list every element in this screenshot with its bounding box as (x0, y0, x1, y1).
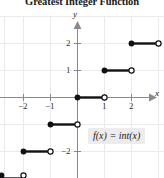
y-tick-label-minus2: −2 (61, 146, 71, 156)
open-endpoint (102, 95, 107, 100)
step-function-plot (0, 0, 164, 178)
open-endpoints (21, 41, 161, 178)
y-tick-label-1: 1 (66, 65, 71, 75)
open-endpoint (21, 173, 26, 178)
closed-endpoint (21, 149, 27, 155)
closed-endpoint (102, 68, 108, 74)
open-endpoint (129, 68, 134, 73)
closed-endpoint (48, 122, 54, 128)
y-axis-arrowhead (74, 21, 82, 29)
closed-endpoint (75, 95, 81, 101)
closed-endpoint (0, 173, 4, 178)
y-axis-label: y (73, 9, 77, 19)
x-tick-label-minus2: −2 (18, 101, 28, 111)
closed-endpoint (129, 41, 135, 47)
figure-container: Greatest Integer Function (0, 0, 164, 178)
y-tick-label-2: 2 (66, 38, 71, 48)
x-axis-label: x (155, 88, 159, 98)
x-tick-label-2: 2 (129, 101, 134, 111)
open-endpoint (156, 41, 161, 46)
open-endpoint (48, 149, 53, 154)
x-tick-label-minus1: −1 (45, 101, 55, 111)
open-endpoint (75, 122, 80, 127)
x-tick-label-1: 1 (102, 101, 107, 111)
axes (0, 22, 149, 178)
function-formula-label: f(x) = int(x) (88, 128, 145, 144)
